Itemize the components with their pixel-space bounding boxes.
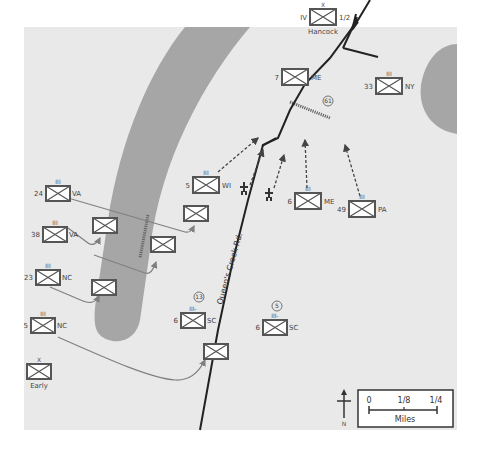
svg-text:Miles: Miles <box>395 415 415 424</box>
svg-text:1/4: 1/4 <box>430 396 443 405</box>
svg-text:38: 38 <box>31 231 40 239</box>
svg-text:13: 13 <box>195 293 203 300</box>
unit-advanced-3[interactable] <box>151 237 175 252</box>
svg-text:IV: IV <box>300 14 307 22</box>
svg-text:VA: VA <box>72 190 81 198</box>
svg-text:7: 7 <box>275 74 279 82</box>
svg-text:61: 61 <box>324 97 332 104</box>
svg-text:0: 0 <box>366 396 371 405</box>
svg-text:1/8: 1/8 <box>398 396 411 405</box>
scale-bar: 0 1/8 1/4 Miles <box>358 390 453 427</box>
svg-text:WI: WI <box>222 182 231 190</box>
svg-text:III: III <box>203 169 209 176</box>
svg-text:PA: PA <box>378 206 387 214</box>
svg-text:23: 23 <box>24 274 33 282</box>
svg-text:6: 6 <box>288 198 293 206</box>
svg-text:Hancock: Hancock <box>308 28 339 36</box>
svg-text:5: 5 <box>186 182 190 190</box>
svg-text:III: III <box>40 310 46 317</box>
unit-advanced-5[interactable] <box>204 344 228 359</box>
svg-text:III-: III- <box>189 305 196 312</box>
svg-text:Early: Early <box>30 382 48 390</box>
svg-text:6: 6 <box>256 324 261 332</box>
svg-text:5: 5 <box>275 302 279 309</box>
svg-text:III: III <box>45 262 51 269</box>
svg-text:III: III <box>359 193 365 200</box>
svg-text:III: III <box>52 219 58 226</box>
svg-text:N: N <box>342 420 347 427</box>
svg-text:SC: SC <box>207 317 216 325</box>
battle-map: Queen's Creek Rd. 61 13 5 <box>0 0 481 456</box>
svg-text:ME: ME <box>311 74 321 82</box>
svg-text:III: III <box>305 185 311 192</box>
unit-advanced-4[interactable] <box>92 280 116 295</box>
svg-text:VA: VA <box>69 231 78 239</box>
svg-text:1/2: 1/2 <box>339 14 350 22</box>
svg-text:49: 49 <box>337 206 346 214</box>
unit-advanced-1[interactable] <box>184 206 208 221</box>
svg-text:X: X <box>321 1 325 8</box>
svg-text:24: 24 <box>34 190 43 198</box>
svg-text:SC: SC <box>289 324 298 332</box>
svg-text:X: X <box>37 356 41 363</box>
svg-text:III-: III- <box>271 312 278 319</box>
svg-text:III: III <box>386 70 392 77</box>
svg-text:NY: NY <box>405 83 415 91</box>
svg-text:ME: ME <box>324 198 334 206</box>
svg-text:NC: NC <box>62 274 72 282</box>
svg-text:5: 5 <box>24 322 28 330</box>
svg-text:NC: NC <box>57 322 67 330</box>
svg-text:33: 33 <box>364 83 373 91</box>
unit-advanced-2[interactable] <box>93 218 117 233</box>
svg-text:III: III <box>55 178 61 185</box>
svg-text:6: 6 <box>174 317 179 325</box>
